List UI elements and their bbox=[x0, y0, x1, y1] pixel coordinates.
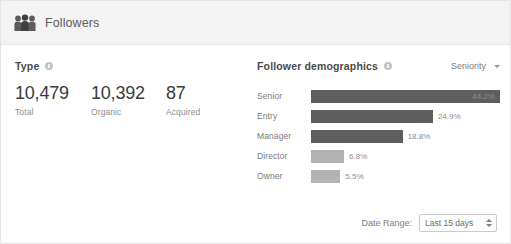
chart-row: Director 6.8% bbox=[257, 146, 500, 166]
type-label: Type bbox=[15, 60, 40, 72]
bar-value-owner: 5.5% bbox=[345, 172, 363, 181]
demographics-header: Follower demographics Seniority bbox=[257, 59, 500, 73]
bar-category-label: Owner bbox=[257, 171, 311, 181]
bar-entry[interactable] bbox=[311, 110, 433, 123]
stat-organic: 10,392 Organic bbox=[91, 84, 166, 117]
date-range-label: Date Range: bbox=[361, 218, 412, 228]
type-panel: Type 10,479 Total 10,392 Organic 87 Acqu… bbox=[15, 59, 230, 117]
chevron-down-icon bbox=[494, 65, 500, 68]
bar-senior[interactable]: 44.2% bbox=[311, 90, 500, 103]
type-stats: 10,479 Total 10,392 Organic 87 Acquired bbox=[15, 84, 230, 117]
spinner-down-arrow[interactable] bbox=[486, 224, 492, 227]
bar-category-label: Manager bbox=[257, 131, 311, 141]
people-group-icon bbox=[14, 14, 36, 32]
chart-row: Senior 44.2% bbox=[257, 86, 500, 106]
demographics-title: Follower demographics bbox=[257, 60, 378, 72]
up-down-spinner-icon[interactable] bbox=[486, 219, 492, 227]
stat-total-label: Total bbox=[15, 107, 91, 117]
bar-value-senior: 44.2% bbox=[472, 92, 495, 101]
bar-director[interactable] bbox=[311, 150, 344, 163]
followers-analytics-module: Followers Type 10,479 Total 10,392 Organ… bbox=[0, 0, 511, 244]
bar-track: 6.8% bbox=[311, 150, 500, 163]
module-header: Followers bbox=[1, 1, 511, 45]
bar-track: 44.2% bbox=[311, 90, 500, 103]
stat-acquired-label: Acquired bbox=[166, 107, 226, 117]
module-title: Followers bbox=[45, 16, 99, 30]
date-range-value: Last 15 days bbox=[425, 218, 486, 228]
bar-category-label: Senior bbox=[257, 91, 311, 101]
stat-acquired-value: 87 bbox=[166, 84, 226, 103]
bar-track: 5.5% bbox=[311, 170, 500, 183]
bar-owner[interactable] bbox=[311, 170, 340, 183]
seniority-dropdown-label: Seniority bbox=[451, 61, 486, 71]
spinner-up-arrow[interactable] bbox=[486, 219, 492, 222]
demographics-bar-chart: Senior 44.2% Entry 24.9% Manager bbox=[257, 86, 500, 186]
follower-demographics-panel: Follower demographics Seniority Senior 4… bbox=[257, 59, 500, 186]
stat-organic-value: 10,392 bbox=[91, 84, 166, 103]
type-header: Type bbox=[15, 59, 230, 73]
stat-organic-label: Organic bbox=[91, 107, 166, 117]
info-circle-icon[interactable] bbox=[384, 62, 392, 70]
bar-category-label: Director bbox=[257, 151, 311, 161]
date-range-control: Date Range: Last 15 days bbox=[361, 214, 497, 232]
bar-value-manager: 18.8% bbox=[408, 132, 431, 141]
bar-value-entry: 24.9% bbox=[438, 112, 461, 121]
bar-manager[interactable] bbox=[311, 130, 403, 143]
bar-track: 18.8% bbox=[311, 130, 500, 143]
date-range-select[interactable]: Last 15 days bbox=[419, 214, 497, 232]
bar-value-director: 6.8% bbox=[349, 152, 367, 161]
info-circle-icon[interactable] bbox=[45, 62, 53, 70]
chart-row: Manager 18.8% bbox=[257, 126, 500, 146]
seniority-dropdown[interactable]: Seniority bbox=[451, 61, 500, 71]
bar-track: 24.9% bbox=[311, 110, 500, 123]
stat-acquired: 87 Acquired bbox=[166, 84, 226, 117]
chart-row: Owner 5.5% bbox=[257, 166, 500, 186]
bar-category-label: Entry bbox=[257, 111, 311, 121]
stat-total: 10,479 Total bbox=[15, 84, 91, 117]
stat-total-value: 10,479 bbox=[15, 84, 91, 103]
chart-row: Entry 24.9% bbox=[257, 106, 500, 126]
